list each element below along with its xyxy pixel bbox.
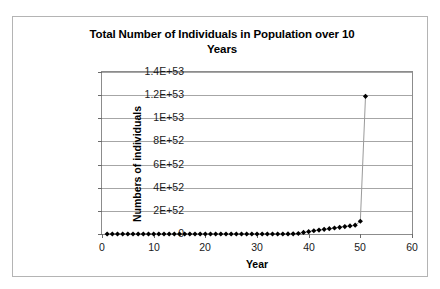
data-point-marker [229, 231, 234, 236]
chart-title: Total Number of Individuals in Populatio… [57, 27, 387, 57]
data-point-marker [161, 231, 166, 236]
x-axis-tick-label: 30 [237, 241, 277, 253]
data-point-marker [208, 231, 213, 236]
x-axis-tick-label: 10 [134, 241, 174, 253]
data-point-marker [322, 227, 327, 232]
x-axis-tick-label: 40 [289, 241, 329, 253]
data-point-marker [270, 231, 275, 236]
data-point-marker [239, 231, 244, 236]
data-point-marker [311, 228, 316, 233]
data-point-marker [265, 231, 270, 236]
data-point-marker [234, 231, 239, 236]
data-point-marker [301, 230, 306, 235]
data-point-marker [198, 231, 203, 236]
data-point-marker [342, 224, 347, 229]
data-point-marker [254, 231, 259, 236]
chart-frame: Total Number of Individuals in Populatio… [12, 16, 428, 277]
data-point-marker [105, 231, 110, 236]
data-point-marker [285, 231, 290, 236]
data-point-marker [130, 231, 135, 236]
data-point-marker [136, 231, 141, 236]
data-point-marker [291, 231, 296, 236]
data-point-marker [347, 223, 352, 228]
data-point-marker [146, 231, 151, 236]
data-point-marker [275, 231, 280, 236]
data-point-marker [125, 231, 130, 236]
data-point-marker [244, 231, 249, 236]
data-point-marker [151, 231, 156, 236]
data-point-marker [332, 225, 337, 230]
data-point-marker [177, 231, 182, 236]
data-point-marker [172, 231, 177, 236]
data-point-marker [156, 231, 161, 236]
data-point-marker [203, 231, 208, 236]
data-series-line [102, 72, 414, 236]
data-point-marker [260, 231, 265, 236]
data-point-marker [213, 231, 218, 236]
data-point-marker [316, 227, 321, 232]
plot-area: 02E+524E+526E+528E+521E+531.2E+531.4E+53… [101, 71, 413, 235]
x-axis-tick-label: 50 [340, 241, 380, 253]
data-point-marker [223, 231, 228, 236]
x-axis-tick-labels: 0102030405060 [102, 241, 412, 257]
x-axis-tick-label: 20 [185, 241, 225, 253]
data-point-marker [182, 231, 187, 236]
data-point-marker [110, 231, 115, 236]
data-point-marker [296, 231, 301, 236]
x-axis-tick-label: 0 [82, 241, 122, 253]
data-point-marker [249, 231, 254, 236]
data-point-marker [192, 231, 197, 236]
chart-title-line-1: Total Number of Individuals in Populatio… [89, 28, 354, 40]
x-axis-title: Year [102, 258, 412, 270]
data-point-marker [363, 94, 368, 99]
data-point-marker [306, 229, 311, 234]
data-point-marker [280, 231, 285, 236]
data-point-marker [120, 231, 125, 236]
data-point-marker [167, 231, 172, 236]
data-point-marker [337, 225, 342, 230]
series-line [107, 96, 365, 234]
data-point-marker [327, 226, 332, 231]
data-point-marker [218, 231, 223, 236]
data-point-marker [187, 231, 192, 236]
x-axis-tick-label: 60 [392, 241, 432, 253]
data-point-marker [115, 231, 120, 236]
chart-title-line-2: Years [207, 43, 237, 55]
data-point-marker [141, 231, 146, 236]
